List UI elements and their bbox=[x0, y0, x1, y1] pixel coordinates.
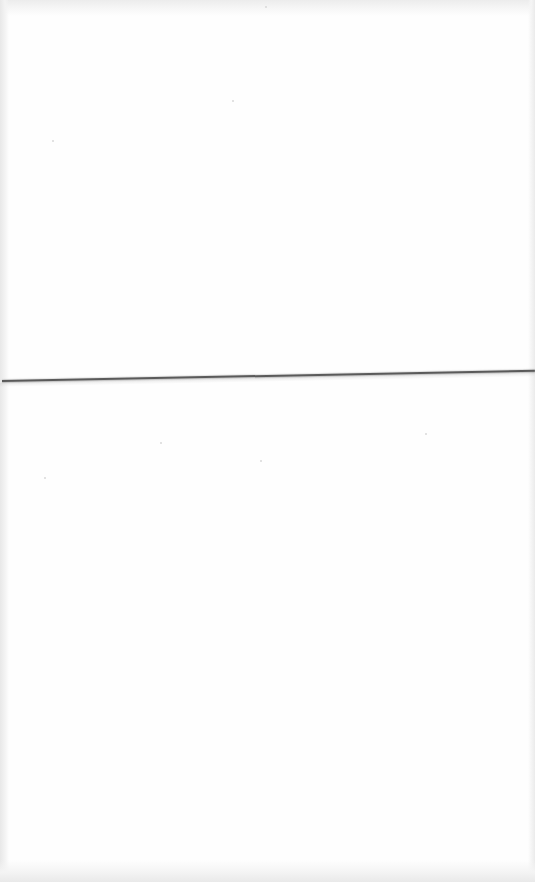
scan-speck bbox=[265, 6, 267, 8]
scan-speck bbox=[260, 460, 262, 462]
scanned-page bbox=[0, 0, 535, 882]
scan-speck bbox=[160, 442, 162, 444]
upper-blank-section bbox=[0, 0, 535, 372]
lower-blank-section bbox=[0, 384, 535, 882]
scan-speck bbox=[52, 140, 54, 142]
scan-speck bbox=[44, 477, 46, 479]
scan-speck bbox=[425, 433, 427, 435]
scan-speck bbox=[232, 100, 234, 102]
